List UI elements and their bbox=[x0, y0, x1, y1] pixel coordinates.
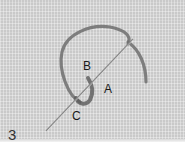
label-c: C bbox=[72, 110, 81, 122]
thread-loop bbox=[61, 26, 129, 102]
label-b: B bbox=[83, 60, 91, 72]
needle bbox=[46, 39, 133, 131]
label-a: A bbox=[104, 83, 112, 95]
thread-and-needle bbox=[0, 0, 185, 158]
thread-tail bbox=[128, 42, 146, 82]
step-number: 3 bbox=[8, 127, 16, 142]
stitch-illustration: B A C 3 bbox=[0, 0, 185, 158]
